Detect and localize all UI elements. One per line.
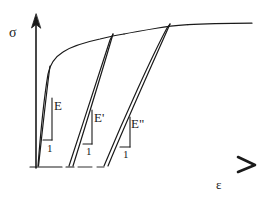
figure-canvas [0, 0, 268, 200]
loading-envelope-curve-2 [124, 25, 188, 34]
loading-envelope-plateau [188, 23, 252, 24]
modulus-label-E-prime: E' [94, 111, 104, 124]
x-axis-arrow-icon [238, 157, 255, 172]
unit-label-1-third: 1 [123, 149, 129, 160]
modulus-label-E: E [54, 99, 62, 112]
y-axis-label-sigma: σ [9, 26, 17, 40]
stress-strain-figure: σ ε E 1 E' 1 E" 1 [0, 0, 268, 200]
unit-label-1-second: 1 [86, 146, 92, 157]
unit-label-1-first: 1 [47, 143, 53, 154]
x-axis-label-epsilon: ε [216, 178, 221, 191]
unload-branch-3 [108, 24, 170, 166]
modulus-label-E-double-prime: E" [131, 117, 144, 130]
unload-branch-2 [73, 34, 113, 166]
